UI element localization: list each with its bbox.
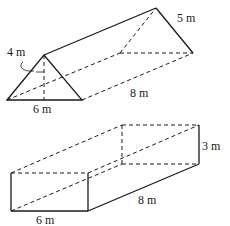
- prism-hidden-back-left-edge: [120, 8, 156, 53]
- box-length-label: 8 m: [138, 193, 157, 207]
- box-top-left-edge: [11, 125, 122, 173]
- prism-base-label: 6 m: [33, 102, 52, 116]
- prism-ridge-edge: [44, 8, 156, 55]
- box-width-label: 6 m: [36, 213, 55, 226]
- prism-height-label: 4 m: [7, 45, 26, 59]
- prism-hidden-base-left-edge: [7, 53, 120, 100]
- box-height-label: 3 m: [202, 139, 221, 153]
- rectangular-box: 3 m 6 m 8 m: [11, 125, 221, 226]
- triangular-prism: 4 m 6 m 5 m 8 m: [7, 8, 196, 116]
- prism-length-label: 8 m: [130, 86, 149, 100]
- prism-slant-label: 5 m: [177, 11, 196, 25]
- diagram-canvas: 4 m 6 m 5 m 8 m 3 m 6 m 8 m: [0, 0, 230, 226]
- box-top-right-edge: [88, 125, 199, 173]
